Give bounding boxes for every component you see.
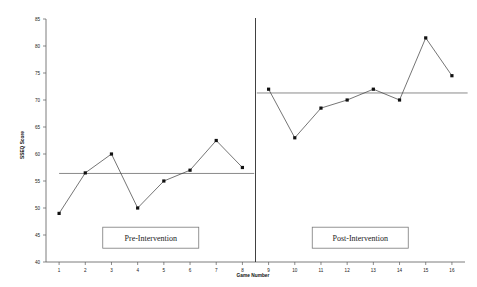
x-tick-label: 7	[215, 268, 218, 273]
data-point-marker	[241, 166, 244, 169]
x-tick-label: 14	[397, 268, 403, 273]
data-point-marker	[450, 74, 453, 77]
y-axis-ticks: 40455055606570758085	[35, 17, 46, 265]
y-tick-label: 45	[35, 233, 41, 238]
data-point-marker	[346, 98, 349, 101]
data-point-marker	[424, 36, 427, 39]
x-tick-label: 1	[58, 268, 61, 273]
phase-label-text: Pre-Intervention	[125, 234, 177, 243]
data-point-marker	[110, 152, 113, 155]
series-line-pre-intervention	[59, 141, 242, 214]
phase-label-text: Post-Intervention	[332, 234, 388, 243]
series-line-post-intervention	[269, 38, 452, 138]
x-tick-label: 5	[163, 268, 166, 273]
data-point-marker	[267, 88, 270, 91]
x-tick-label: 4	[136, 268, 139, 273]
x-tick-label: 11	[319, 268, 324, 273]
x-tick-label: 6	[189, 268, 192, 273]
x-tick-label: 2	[84, 268, 87, 273]
y-axis-title: SSEQ Score	[20, 131, 25, 159]
data-point-marker	[188, 169, 191, 172]
y-tick-label: 85	[35, 17, 41, 22]
x-tick-label: 13	[371, 268, 377, 273]
x-axis-ticks: 12345678910111213141516	[58, 262, 455, 273]
x-tick-label: 15	[423, 268, 429, 273]
data-point-marker	[215, 139, 218, 142]
x-axis-title: Game Number	[237, 273, 270, 278]
y-tick-label: 60	[35, 152, 41, 157]
x-tick-label: 16	[449, 268, 455, 273]
data-point-marker	[136, 206, 139, 209]
y-tick-label: 50	[35, 206, 41, 211]
data-point-marker	[84, 171, 87, 174]
x-tick-label: 10	[292, 268, 298, 273]
data-point-marker	[57, 212, 60, 215]
data-point-marker	[372, 88, 375, 91]
data-point-marker	[162, 179, 165, 182]
phase-mean-lines	[59, 93, 468, 173]
y-tick-label: 40	[35, 260, 41, 265]
y-tick-label: 55	[35, 179, 41, 184]
y-tick-label: 65	[35, 125, 41, 130]
y-tick-label: 80	[35, 44, 41, 49]
data-point-marker	[398, 98, 401, 101]
y-tick-label: 75	[35, 71, 41, 76]
x-tick-label: 12	[345, 268, 351, 273]
sseq-score-line-chart: 40455055606570758085 1234567891011121314…	[0, 0, 477, 287]
x-tick-label: 3	[110, 268, 113, 273]
data-point-marker	[319, 107, 322, 110]
y-tick-label: 70	[35, 98, 41, 103]
data-point-marker	[293, 136, 296, 139]
chart-container: 40455055606570758085 1234567891011121314…	[0, 0, 477, 287]
